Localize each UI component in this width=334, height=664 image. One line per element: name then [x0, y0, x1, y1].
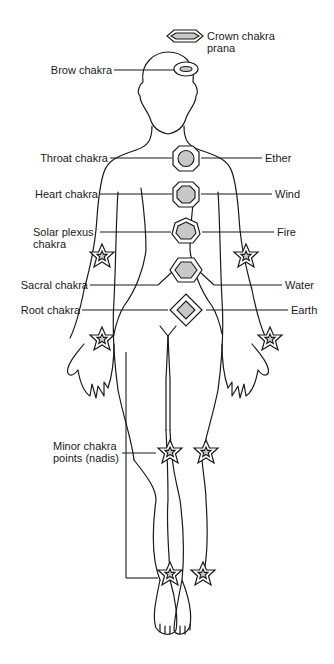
label-sacral-chakra: Sacral chakra	[21, 279, 89, 291]
label-heart-chakra: Heart chakra	[35, 188, 99, 200]
chakra-diagram: Brow chakra Throat chakra Heart chakra S…	[0, 0, 334, 664]
right-ankle-star-icon	[191, 562, 215, 585]
label-root-chakra: Root chakra	[21, 304, 81, 316]
brow-chakra-symbol	[174, 62, 198, 76]
label-crown-chakra-line1: Crown chakra	[207, 30, 276, 42]
label-minor-chakra-line1: Minor chakra	[53, 440, 117, 452]
crown-chakra-symbol	[167, 30, 203, 42]
right-knee-star-icon	[194, 440, 218, 463]
left-knee-star-icon	[158, 440, 182, 463]
label-throat-chakra: Throat chakra	[40, 152, 109, 164]
root-chakra-symbol	[170, 294, 202, 326]
label-crown-chakra-line2: prana	[207, 42, 236, 54]
label-brow-chakra: Brow chakra	[51, 64, 113, 76]
right-labels: Crown chakra prana Ether Wind Fire Water…	[207, 30, 317, 316]
left-wrist-star-icon	[90, 327, 114, 350]
label-fire: Fire	[277, 226, 296, 238]
label-solar-plexus-line2: chakra	[33, 238, 67, 250]
label-ether: Ether	[265, 152, 292, 164]
right-wrist-star-icon	[258, 327, 282, 350]
heart-chakra-symbol	[173, 182, 199, 207]
label-earth: Earth	[291, 304, 317, 316]
solar-plexus-chakra-symbol	[172, 218, 200, 243]
label-solar-plexus-line1: Solar plexus	[33, 226, 94, 238]
label-water: Water	[285, 279, 314, 291]
label-wind: Wind	[275, 188, 300, 200]
label-minor-chakra-line2: points (nadis)	[53, 452, 119, 464]
throat-chakra-symbol	[173, 146, 199, 171]
